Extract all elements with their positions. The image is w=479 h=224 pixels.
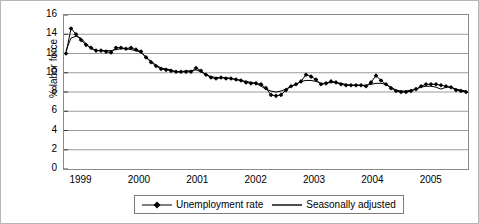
legend-item-unemployment-rate: Unemployment rate [142, 199, 263, 210]
data-point-marker [124, 46, 129, 51]
data-point-marker [294, 82, 299, 87]
series-line-unemployment-rate [66, 28, 466, 95]
data-point-marker [174, 69, 179, 74]
x-tick-label: 1999 [61, 174, 101, 185]
y-tick-label: 8 [35, 86, 57, 96]
data-point-marker [274, 94, 279, 99]
data-point-marker [449, 85, 454, 90]
y-tick-label: 16 [35, 9, 57, 19]
data-point-marker [349, 83, 354, 88]
chart-legend: Unemployment rate Seasonally adjusted [134, 195, 404, 214]
diamond-marker-icon [142, 200, 172, 210]
data-point-marker [99, 48, 104, 53]
x-tick-label: 2000 [119, 174, 159, 185]
data-point-marker [94, 48, 99, 53]
y-tick-label: 4 [35, 125, 57, 135]
data-point-marker [224, 76, 229, 81]
data-point-marker [354, 83, 359, 88]
data-point-marker [219, 75, 224, 80]
chart-screenshot: % labor force 1614121086420 199920002001… [0, 0, 479, 224]
data-point-marker [414, 87, 419, 92]
data-point-marker [324, 81, 329, 86]
data-point-marker [179, 69, 184, 74]
y-tick-label: 14 [35, 28, 57, 38]
legend-label-seasonally-adjusted: Seasonally adjusted [306, 199, 396, 210]
data-point-marker [334, 80, 339, 85]
series-markers-unemployment-rate [64, 26, 468, 98]
data-point-marker [309, 74, 314, 79]
plot-area [63, 14, 469, 170]
x-tick-label: 2003 [294, 174, 334, 185]
data-point-marker [439, 83, 444, 88]
line-marker-icon [272, 200, 302, 210]
legend-label-unemployment-rate: Unemployment rate [176, 199, 263, 210]
x-tick-label: 2002 [236, 174, 276, 185]
data-point-marker [229, 76, 234, 81]
x-tick-label: 2005 [411, 174, 451, 185]
data-point-marker [234, 77, 239, 82]
data-point-marker [434, 82, 439, 87]
data-point-marker [64, 51, 68, 56]
y-tick-label: 10 [35, 67, 57, 77]
legend-item-seasonally-adjusted: Seasonally adjusted [272, 199, 396, 210]
data-point-marker [184, 69, 189, 74]
series-line-seasonally-adjusted [66, 36, 466, 92]
y-tick-label: 12 [35, 48, 57, 58]
y-tick-label: 0 [35, 163, 57, 173]
y-tick-label: 2 [35, 144, 57, 154]
data-point-marker [239, 78, 244, 83]
x-tick-label: 2001 [177, 174, 217, 185]
y-tick-label: 6 [35, 105, 57, 115]
data-point-marker [359, 83, 364, 88]
data-point-marker [254, 81, 259, 86]
plot-canvas [64, 15, 468, 169]
x-tick-label: 2004 [352, 174, 392, 185]
